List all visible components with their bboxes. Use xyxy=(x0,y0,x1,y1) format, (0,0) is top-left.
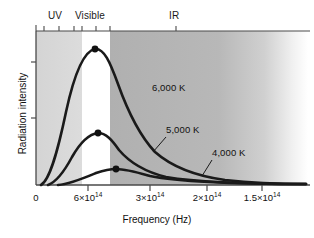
band-bracket-ticks xyxy=(44,26,176,31)
x-tick-label-1: 6×1014 xyxy=(63,192,113,203)
x-tick-label-2: 3×1014 xyxy=(125,192,175,203)
x-tick-mantissa-3: 2×10 xyxy=(193,192,214,203)
band-label-visible: Visible xyxy=(75,10,105,21)
x-tick-mantissa-0: 0 xyxy=(33,192,38,203)
y-axis-ticks xyxy=(31,62,36,118)
x-axis-ticks xyxy=(88,185,262,191)
series-label-6000k: 6,000 K xyxy=(152,82,185,93)
band-label-uv: UV xyxy=(48,10,62,21)
x-tick-label-4: 1.5×1014 xyxy=(233,192,291,203)
series-label-5000k: 5,000 K xyxy=(166,124,199,135)
blackbody-radiation-chart: UV Visible IR 6,000 K 5,000 K 4,000 K 0 … xyxy=(0,0,314,238)
band-label-ir: IR xyxy=(169,10,179,21)
peak-marker-4000k xyxy=(113,166,120,173)
series-label-4000k: 4,000 K xyxy=(212,147,245,158)
band-fill-ir xyxy=(110,31,308,185)
x-axis-title: Frequency (Hz) xyxy=(0,214,314,225)
peak-marker-6000k xyxy=(92,46,99,53)
x-tick-exponent-1: 14 xyxy=(95,191,102,198)
x-tick-mantissa-2: 3×10 xyxy=(136,192,157,203)
x-tick-mantissa-1: 6×10 xyxy=(74,192,95,203)
x-tick-exponent-2: 14 xyxy=(157,191,164,198)
x-tick-exponent-4: 14 xyxy=(273,191,280,198)
y-axis-title: Radiation intensity xyxy=(17,39,28,189)
x-tick-label-0: 0 xyxy=(26,192,46,203)
band-fill-uv xyxy=(36,31,82,185)
x-tick-label-3: 2×1014 xyxy=(182,192,232,203)
x-tick-mantissa-4: 1.5×10 xyxy=(244,192,273,203)
x-tick-exponent-3: 14 xyxy=(214,191,221,198)
peak-marker-5000k xyxy=(95,130,102,137)
